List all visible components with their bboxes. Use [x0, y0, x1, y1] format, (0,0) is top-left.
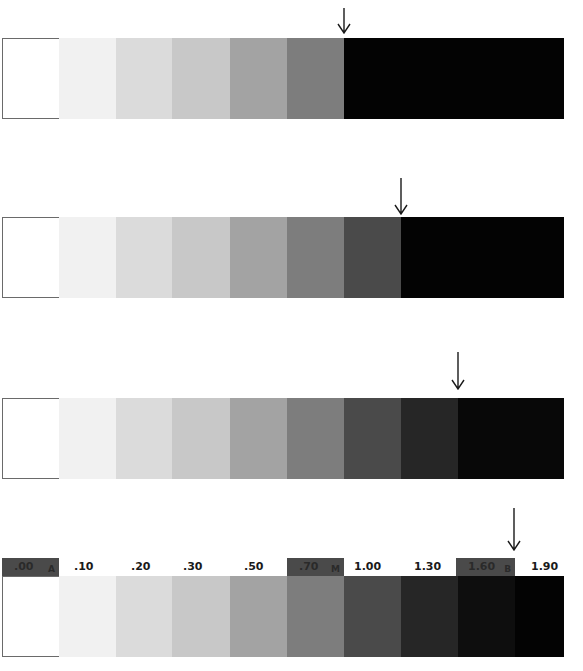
- density-label: 1.00: [354, 558, 394, 576]
- density-patch: [230, 38, 287, 119]
- density-value: .70: [299, 558, 319, 576]
- density-patch: [401, 576, 458, 657]
- density-value: 1.60: [468, 558, 495, 576]
- density-patch: [401, 217, 564, 298]
- density-label: .00A: [2, 558, 59, 576]
- density-patch: [59, 217, 116, 298]
- density-patch: [172, 576, 230, 657]
- density-label: .10: [74, 558, 114, 576]
- density-patch: [287, 38, 344, 119]
- density-value: 1.30: [414, 558, 441, 576]
- density-patch: [59, 38, 116, 119]
- density-patch: [116, 398, 172, 479]
- density-value: 1.00: [354, 558, 381, 576]
- density-patch: [116, 576, 172, 657]
- down-arrow-icon: [337, 8, 351, 34]
- density-patch: [287, 398, 344, 479]
- density-patch: [344, 217, 401, 298]
- density-patch: [287, 217, 344, 298]
- density-tag: B: [504, 563, 511, 575]
- density-patch: [515, 576, 564, 657]
- density-patch: [2, 576, 59, 657]
- density-label: 1.30: [414, 558, 454, 576]
- density-patch: [172, 398, 230, 479]
- down-arrow-icon: [451, 352, 465, 390]
- density-patch: [59, 576, 116, 657]
- density-patch: [458, 398, 564, 479]
- density-label: .50: [244, 558, 284, 576]
- density-patch: [287, 576, 344, 657]
- density-patch: [344, 38, 564, 119]
- density-patch: [59, 398, 116, 479]
- density-value: 1.90: [531, 558, 558, 576]
- density-patch: [2, 398, 59, 479]
- down-arrow-icon: [394, 178, 408, 215]
- density-patch: [230, 398, 287, 479]
- density-tag: M: [331, 563, 340, 575]
- density-label: 1.60B: [456, 558, 515, 576]
- density-value: .10: [74, 558, 94, 576]
- density-label: .20: [131, 558, 171, 576]
- density-patch: [401, 398, 458, 479]
- density-patch: [172, 38, 230, 119]
- density-patch: [344, 398, 401, 479]
- step-wedge-strip-4: [2, 576, 564, 657]
- density-value: .30: [183, 558, 203, 576]
- density-patch: [116, 217, 172, 298]
- density-patch: [116, 38, 172, 119]
- density-label: 1.90: [531, 558, 571, 576]
- density-patch: [172, 217, 230, 298]
- density-tag: A: [48, 563, 55, 575]
- density-value: .00: [14, 558, 34, 576]
- density-patch: [2, 38, 59, 119]
- density-patch: [2, 217, 59, 298]
- density-label: .70M: [287, 558, 344, 576]
- density-patch: [230, 217, 287, 298]
- step-wedge-strip-3: [2, 398, 564, 479]
- density-patch: [230, 576, 287, 657]
- step-wedge-strip-1: [2, 38, 564, 119]
- density-patch: [344, 576, 401, 657]
- density-patch: [458, 576, 515, 657]
- down-arrow-icon: [507, 508, 521, 551]
- step-wedge-strip-2: [2, 217, 564, 298]
- density-value: .50: [244, 558, 264, 576]
- density-label: .30: [183, 558, 223, 576]
- density-value: .20: [131, 558, 151, 576]
